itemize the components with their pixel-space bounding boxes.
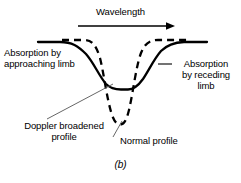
figure-container: Wavelength Absorption by approaching lim…: [0, 0, 241, 183]
label-doppler-broadened-profile: Doppler broadened profile: [8, 120, 120, 142]
diagram-canvas: [0, 0, 241, 183]
label-absorption-approaching-limb: Absorption by approaching limb: [4, 47, 75, 69]
leader-line-doppler: [47, 84, 113, 119]
normal-profile-curve: [62, 40, 190, 125]
wavelength-axis-label: Wavelength: [0, 6, 241, 17]
label-absorption-receding-limb: Absorption by receding limb: [173, 58, 239, 91]
label-normal-profile: Normal profile: [120, 135, 178, 146]
figure-caption: (b): [0, 159, 241, 170]
wavelength-arrow: [78, 22, 175, 30]
